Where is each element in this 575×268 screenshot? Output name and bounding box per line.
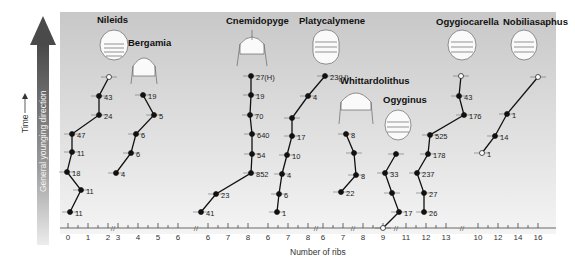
data-point [249, 171, 254, 176]
title-bergamia: Bergamia [128, 37, 172, 48]
x-tick-label: 8 [246, 233, 251, 242]
data-point [250, 152, 255, 157]
data-point-label: 5 [159, 112, 163, 121]
data-point-label: 14 [500, 133, 508, 142]
data-point [97, 113, 102, 118]
x-tick-label: 6 [321, 233, 326, 242]
data-point-label: 23 [221, 191, 229, 200]
data-point [290, 134, 295, 139]
x-tick-label: 7 [286, 233, 291, 242]
data-point [422, 210, 427, 215]
data-point-label: 6 [141, 131, 145, 140]
trilobite-icon [313, 30, 339, 64]
title-nobiliasaphus: Nobiliasaphus [503, 16, 568, 27]
data-point [536, 75, 541, 80]
data-point-label: 640 [257, 131, 270, 140]
data-point-label: 1 [282, 209, 286, 218]
data-point [422, 191, 427, 196]
data-point [141, 93, 146, 98]
x-tick-label: 7 [341, 233, 346, 242]
data-point-label: 43 [464, 93, 472, 102]
data-point [381, 226, 386, 231]
x-tick-label: 12 [494, 233, 503, 242]
data-point [306, 94, 311, 99]
data-point-label: 1 [487, 150, 491, 159]
data-point-label: 852 [256, 170, 269, 179]
x-tick-label: 6 [176, 233, 181, 242]
title-cnemidopyge: Cnemidopyge [226, 15, 289, 26]
data-point [114, 171, 119, 176]
trilobite-icon [100, 30, 128, 60]
data-point-label: 525 [435, 132, 448, 141]
svg-text://: // [314, 224, 319, 233]
x-tick-label: 1 [86, 233, 91, 242]
svg-text://: // [460, 224, 465, 233]
svg-text://: // [194, 224, 199, 233]
title-whittardolithus: Whittardolithus [340, 75, 410, 86]
x-tick-label: 12 [422, 233, 431, 242]
data-point [352, 151, 357, 156]
data-point [199, 210, 204, 215]
data-point [339, 190, 344, 195]
x-tick-label: 16 [534, 233, 543, 242]
svg-text://: // [351, 224, 356, 233]
data-point [428, 133, 433, 138]
data-point [152, 113, 157, 118]
title-nileids: Nileids [97, 14, 128, 25]
x-tick-label: 8 [306, 233, 311, 242]
x-tick-label: 2 [106, 233, 111, 242]
data-point [354, 173, 359, 178]
data-point-label: 54 [257, 151, 265, 160]
data-point-label: 6 [284, 191, 288, 200]
data-point [280, 172, 285, 177]
data-point [249, 74, 254, 79]
data-point [129, 151, 134, 156]
data-point [457, 94, 462, 99]
data-point-label: 17 [404, 209, 412, 218]
data-point [249, 93, 254, 98]
data-point-label: 26 [429, 209, 437, 218]
data-point [344, 132, 349, 137]
data-point-label: 4 [313, 93, 317, 102]
data-point-label: 18 [72, 169, 80, 178]
data-point-label: 27 [429, 190, 437, 199]
data-point-label: 24 [104, 112, 112, 121]
time-label: Time [20, 114, 30, 133]
x-tick-label: 10 [474, 233, 483, 242]
x-tick-label: 3 [116, 233, 121, 242]
x-tick-label: 7 [226, 233, 231, 242]
data-point-label: 10 [292, 152, 300, 161]
data-point [277, 192, 282, 197]
data-point [65, 170, 70, 175]
svg-text://: // [394, 224, 399, 233]
data-point [248, 113, 253, 118]
chart: General younging direction Time 01234566… [0, 0, 575, 268]
data-point [134, 132, 139, 137]
title-ogygiocarella: Ogygiocarella [436, 16, 500, 27]
data-point-label: 47 [77, 131, 85, 140]
trilobite-icon [511, 30, 537, 60]
data-point-label: 6 [136, 150, 140, 159]
x-tick-label: 5 [156, 233, 161, 242]
svg-text://: // [111, 224, 116, 233]
data-point-label: 43 [104, 93, 112, 102]
data-point-label: 19 [256, 92, 264, 101]
data-point [480, 151, 485, 156]
data-point [290, 116, 295, 121]
data-point-label: 237 [422, 170, 435, 179]
title-ogyginus: Ogyginus [383, 94, 427, 105]
data-point [493, 134, 498, 139]
data-point-label: 8 [361, 172, 365, 181]
x-tick-label: 14 [514, 233, 523, 242]
data-point-label: 70 [255, 112, 263, 121]
data-point [462, 113, 467, 118]
data-point-label: 176 [469, 112, 482, 121]
data-point [285, 153, 290, 158]
title-platycalymene: Platycalymene [299, 15, 365, 26]
x-tick-label: 6 [266, 233, 271, 242]
data-point [390, 191, 395, 196]
trilobite-icon [448, 30, 476, 60]
data-point-label: 23(H) [330, 73, 349, 82]
data-point-label: 4 [287, 171, 291, 180]
data-point-label: 11 [75, 209, 83, 218]
